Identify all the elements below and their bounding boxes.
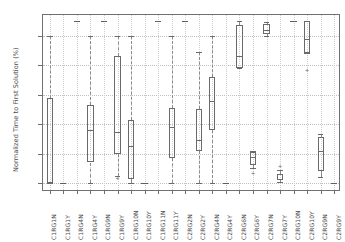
x-axis-tick-label: C2RG9Y [336,215,342,240]
box-plot-whisker-lower [90,163,91,184]
y-axis-tick [38,65,43,66]
box-plot-box [47,98,53,184]
box-plot-cap-upper [237,21,243,22]
gridline-vertical [77,15,78,190]
gridline-vertical [226,15,227,190]
box-plot-box [304,21,310,53]
box-plot-whisker-upper [131,36,132,120]
gridline-horizontal [43,65,339,66]
box-plot-median [236,56,242,57]
y-axis-tick [38,124,43,125]
x-axis-tick-label: C2RG6N [241,214,247,240]
box-plot-cap-lower [88,183,94,184]
box-plot-whisker-lower [172,158,173,183]
x-axis-tick-label: C2RG7Y [282,215,288,240]
box-plot-median [318,151,324,152]
box-plot-median [169,127,175,128]
box-plot-median [209,101,215,102]
box-plot-cap-lower [277,182,283,183]
box-plot-degenerate-line [223,183,229,184]
box-plot-degenerate-line [141,183,147,184]
box-plot-whisker-upper [90,36,91,105]
box-plot-outlier: + [277,164,283,170]
gridline-vertical [63,15,64,190]
box-plot-box [169,108,175,158]
x-axis-tick-label: C1RG9N [105,214,111,240]
box-plot-median [87,130,93,131]
plot-area: ++++ 020406080100 [42,14,340,191]
x-axis-tick-label: C1RG9Y [119,215,125,240]
x-axis-tick-label: C2RG2N [187,214,193,240]
gridline-vertical [104,15,105,190]
box-plot-whisker-upper [199,52,200,110]
x-axis-tick-label: C1RG4N [78,214,84,240]
y-axis-tick [38,95,43,96]
box-plot-outlier: + [250,171,256,177]
box-plot-cap-lower [169,183,175,184]
box-plot-cap-lower [210,183,216,184]
box-plot-whisker-lower [199,151,200,183]
y-axis-tick [38,36,43,37]
box-plot-cap-lower [304,53,310,54]
box-plot-median [277,179,283,180]
box-plot-whisker-lower [118,154,119,176]
box-plot-cap-lower [318,177,324,178]
box-plot-outlier: + [115,176,121,182]
box-plot-cap-upper [115,36,121,37]
box-plot-box [318,137,324,171]
box-plot-median [114,132,120,133]
box-plot-whisker-lower [212,130,213,183]
box-plot-cap-upper [196,52,202,53]
box-plot-degenerate-line [60,183,66,184]
box-plot-cap-lower [128,183,134,184]
box-plot-cap-upper [277,170,283,171]
x-axis-tick-label: C1RG10N [133,210,139,240]
box-plot-cap-lower [250,168,256,169]
box-plot-whisker-upper [172,36,173,108]
box-plot-whisker-upper [118,36,119,57]
box-plot-cap-upper [47,36,53,37]
x-axis-tick-label: C1RG10Y [146,211,152,240]
box-plot-cap-upper [88,36,94,37]
x-axis-tick-label: C2RG4Y [227,215,233,240]
x-axis-tick-label: C2RG10N [295,210,301,240]
y-axis-tick [38,154,43,155]
x-axis-tick-label: C1RG11Y [173,211,179,240]
x-axis-tick-label: C2RG6Y [254,215,260,240]
box-plot-box [87,105,93,163]
gridline-vertical [185,15,186,190]
x-axis-tick-label: C2RG4N [214,214,220,240]
gridline-horizontal [43,95,339,96]
box-plot-cap-upper [169,36,175,37]
box-plot-whisker-upper [212,36,213,77]
box-plot-median [128,146,134,147]
gridline-vertical [145,15,146,190]
box-plot-median [304,39,310,40]
x-axis-tick-label: C1RG4Y [92,215,98,240]
box-plot-figure: Normalized Time to First Solution (%) ++… [0,0,345,242]
box-plot-median [47,183,53,184]
box-plot-box [114,56,120,153]
box-plot-whisker-upper [50,36,51,98]
box-plot-median [263,30,269,31]
box-plot-degenerate-line [290,21,296,22]
x-axis-tick-label: C2RG7N [268,214,274,240]
box-plot-cap-upper [128,36,134,37]
box-plot-degenerate-line [331,183,337,184]
x-axis-labels: C1RG1NC1RG1YC1RG4NC1RG4YC1RG9NC1RG9YC1RG… [42,193,340,242]
box-plot-median [196,140,202,141]
x-axis-tick-label: C2RG2Y [200,215,206,240]
box-plot-cap-upper [210,36,216,37]
box-plot-cap-lower [196,183,202,184]
gridline-vertical [158,15,159,190]
x-axis-tick-label: C1RG11N [160,210,166,240]
y-axis-title: Normalized Time to First Solution (%) [12,47,20,172]
box-plot-box [250,152,256,165]
x-axis-tick-label: C2RG10Y [309,211,315,240]
box-plot-cap-upper [318,134,324,135]
gridline-vertical [294,15,295,190]
gridline-vertical [334,15,335,190]
box-plot-degenerate-line [182,21,188,22]
y-axis-tick [38,183,43,184]
box-plot-box [236,25,242,68]
